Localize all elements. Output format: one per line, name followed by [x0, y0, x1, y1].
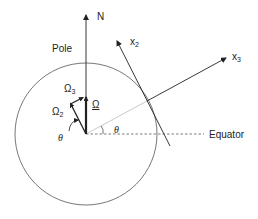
- equator-label: Equator: [209, 129, 245, 140]
- x2-label: x2: [130, 36, 139, 48]
- x3-label: x3: [232, 51, 241, 63]
- theta-center-label: θ: [114, 124, 119, 135]
- omega3-vector: [71, 98, 84, 105]
- x2-axis-arrow: [117, 41, 170, 146]
- omega2-label: Ω2: [52, 106, 63, 118]
- theta-left-arc-icon: [69, 120, 78, 131]
- omega-label: Ω: [92, 99, 100, 110]
- theta-center-arc-icon: [101, 126, 103, 134]
- north-label: N: [97, 11, 104, 22]
- pole-label: Pole: [52, 43, 72, 54]
- omega3-label: Ω3: [64, 83, 75, 95]
- theta-left-label: θ: [58, 132, 63, 143]
- x3-axis-arrow: [147, 58, 226, 101]
- earth-rotation-diagram: N Pole Ω3 Ω Ω2 θ θ Equator x2 x3: [0, 0, 258, 219]
- omega2-vector: [71, 104, 87, 135]
